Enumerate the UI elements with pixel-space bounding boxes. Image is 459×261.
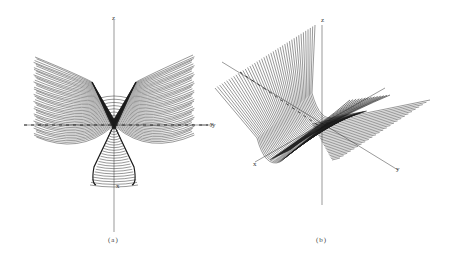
panel-caption-b: (b) bbox=[316, 236, 327, 244]
axis-label-z: z bbox=[112, 15, 115, 22]
axis-label-x: x bbox=[116, 183, 120, 190]
panel-caption-a: (a) bbox=[108, 236, 119, 244]
axis-label-z: z bbox=[321, 17, 324, 24]
figure-panel-b: z y x y (b) bbox=[200, 0, 459, 261]
axis-label-y-right: y bbox=[396, 166, 400, 173]
figure-panel-a: z y x (a) bbox=[0, 0, 230, 261]
surface-plot-b bbox=[200, 0, 459, 261]
axis-label-y-left: y bbox=[212, 122, 216, 129]
axis-label-x: x bbox=[253, 161, 257, 168]
surface-plot-a bbox=[0, 0, 230, 261]
